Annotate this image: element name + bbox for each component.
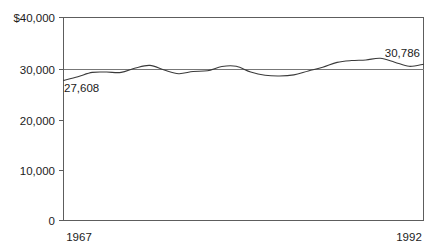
chart-canvas: $40,000 30,000 20,000 10,000 0 1967 1992… [0, 0, 436, 250]
annotation-end-value: 30,786 [385, 47, 420, 59]
annotation-start-value: 27,608 [64, 82, 99, 94]
x-tick-label-1992: 1992 [396, 231, 422, 243]
line-chart: $40,000 30,000 20,000 10,000 0 1967 1992… [0, 0, 436, 250]
plot-area-border [64, 18, 424, 221]
y-tick-label-30000: 30,000 [20, 64, 55, 76]
y-tick-label-10000: 10,000 [20, 165, 55, 177]
y-tick-label-0: 0 [49, 215, 55, 227]
y-tick-label-40000: $40,000 [13, 12, 55, 24]
y-axis-ticks [59, 18, 64, 221]
plot-frame [64, 18, 424, 221]
y-tick-label-20000: 20,000 [20, 115, 55, 127]
x-tick-label-1967: 1967 [66, 231, 92, 243]
